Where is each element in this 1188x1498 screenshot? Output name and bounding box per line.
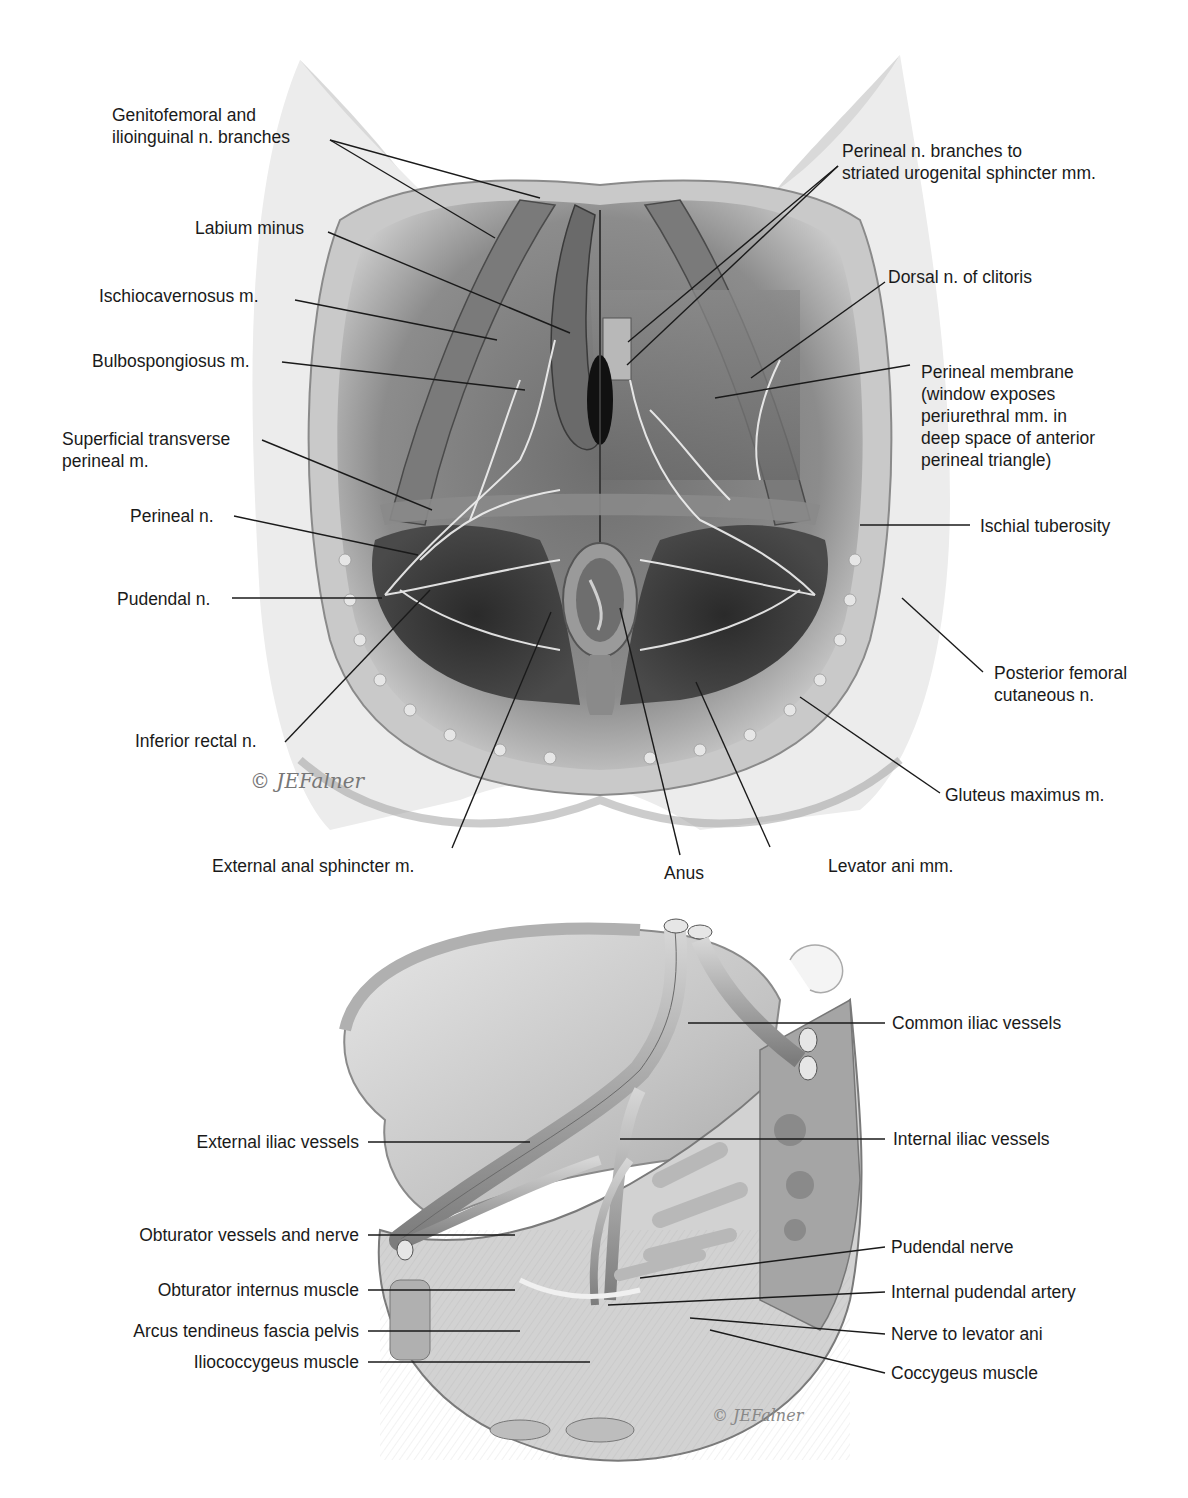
label-perineal-n-branches: Perineal n. branches to striated urogeni… xyxy=(842,140,1096,184)
label-common-iliac-vessels: Common iliac vessels xyxy=(892,1012,1061,1034)
label-superficial-transverse-perineal: Superficial transverse perineal m. xyxy=(62,428,230,472)
label-bulbospongiosus: Bulbospongiosus m. xyxy=(92,350,250,372)
label-gluteus-maximus: Gluteus maximus m. xyxy=(945,784,1104,806)
artist-signature-bottom: © JEFalner xyxy=(712,1405,803,1427)
artist-signature-top: © JEFalner xyxy=(250,770,364,792)
label-anus: Anus xyxy=(664,862,704,884)
label-obturator-internus: Obturator internus muscle xyxy=(158,1279,359,1301)
label-external-anal-sphincter: External anal sphincter m. xyxy=(212,855,414,877)
label-levator-ani: Levator ani mm. xyxy=(828,855,953,877)
label-internal-pudendal-artery: Internal pudendal artery xyxy=(891,1281,1076,1303)
label-nerve-to-levator-ani: Nerve to levator ani xyxy=(891,1323,1043,1345)
label-perineal-n: Perineal n. xyxy=(130,505,214,527)
label-inferior-rectal-n: Inferior rectal n. xyxy=(135,730,257,752)
label-pudendal-n: Pudendal n. xyxy=(117,588,210,610)
label-posterior-femoral-cutaneous: Posterior femoral cutaneous n. xyxy=(994,662,1127,706)
label-perineal-membrane: Perineal membrane (window exposes periur… xyxy=(921,361,1095,471)
pelvic-sidewall-illustration xyxy=(344,919,861,1461)
label-obturator-vessels-nerve: Obturator vessels and nerve xyxy=(139,1224,359,1246)
label-ischial-tuberosity: Ischial tuberosity xyxy=(980,515,1110,537)
label-coccygeus-muscle: Coccygeus muscle xyxy=(891,1362,1038,1384)
label-labium-minus: Labium minus xyxy=(195,217,304,239)
label-internal-iliac-vessels: Internal iliac vessels xyxy=(893,1128,1050,1150)
label-genitofemoral-branches: Genitofemoral and ilioinguinal n. branch… xyxy=(112,104,290,148)
label-external-iliac-vessels: External iliac vessels xyxy=(197,1131,359,1153)
label-dorsal-n-clitoris: Dorsal n. of clitoris xyxy=(888,266,1032,288)
label-ischiocavernosus: Ischiocavernosus m. xyxy=(99,285,259,307)
label-arcus-tendineus: Arcus tendineus fascia pelvis xyxy=(133,1320,359,1342)
label-pudendal-nerve: Pudendal nerve xyxy=(891,1236,1014,1258)
label-iliococcygeus: Iliococcygeus muscle xyxy=(194,1351,359,1373)
